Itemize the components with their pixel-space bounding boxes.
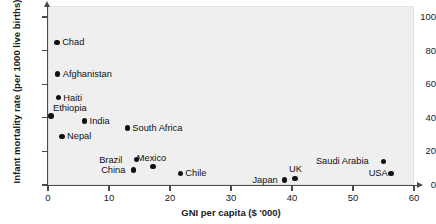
data-point xyxy=(178,171,183,176)
x-tick-mark xyxy=(352,186,353,191)
y-tick-label: 0 xyxy=(396,180,436,190)
data-point-label: Chad xyxy=(62,37,84,47)
x-tick-mark xyxy=(413,186,414,191)
x-tick-label: 10 xyxy=(89,193,129,203)
data-point xyxy=(292,176,297,181)
data-point xyxy=(125,125,130,130)
data-point-label: Chile xyxy=(185,168,206,178)
data-point-label: Afghanistan xyxy=(63,69,112,79)
data-point-label: Haiti xyxy=(63,93,82,103)
x-tick-mark xyxy=(230,186,231,191)
x-tick-label: 50 xyxy=(333,193,373,203)
y-tick-label: 80 xyxy=(396,46,436,56)
y-tick-label: 40 xyxy=(396,113,436,123)
y-tick-label: 20 xyxy=(396,146,436,156)
data-point-label: India xyxy=(90,116,110,126)
x-tick-label: 40 xyxy=(272,193,312,203)
scatter-chart: 020406080100 0102030405060 ChadAfghanist… xyxy=(0,0,436,224)
x-tick-mark xyxy=(108,186,109,191)
data-point-label: Ethiopia xyxy=(53,103,87,113)
data-point-label: China xyxy=(101,165,125,175)
data-point-label: South Africa xyxy=(132,123,182,133)
data-point-label: Brazil xyxy=(99,155,122,165)
x-tick-label: 0 xyxy=(28,193,68,203)
data-point xyxy=(150,164,155,169)
x-axis-line xyxy=(47,185,419,186)
x-tick-label: 20 xyxy=(150,193,190,203)
y-tick-label: 60 xyxy=(396,79,436,89)
x-axis-title: GNI per capita ($ '000) xyxy=(48,207,414,218)
data-point xyxy=(282,177,287,182)
y-tick-mark xyxy=(42,184,47,185)
y-tick-mark xyxy=(42,50,47,51)
data-point xyxy=(82,118,87,123)
data-point-label: Mexico xyxy=(137,153,166,163)
y-tick-mark xyxy=(42,84,47,85)
data-point xyxy=(54,40,59,45)
x-tick-mark xyxy=(291,186,292,191)
x-tick-mark xyxy=(169,186,170,191)
data-point xyxy=(388,171,393,176)
data-point-label: Nepal xyxy=(67,131,91,141)
x-tick-label: 30 xyxy=(211,193,251,203)
data-point-label: Saudi Arabia xyxy=(316,156,369,166)
y-axis-line xyxy=(47,6,48,186)
data-point-label: UK xyxy=(289,164,302,174)
data-point xyxy=(131,167,136,172)
y-tick-mark xyxy=(42,151,47,152)
y-tick-label: 100 xyxy=(396,12,436,22)
y-axis-title: Infant mortality rate (per 1000 live bir… xyxy=(11,0,22,187)
y-tick-mark xyxy=(42,16,47,17)
data-point xyxy=(59,134,64,139)
x-tick-mark xyxy=(47,186,48,191)
data-point-label: Japan xyxy=(252,175,277,185)
data-point-label: USA xyxy=(369,168,388,178)
data-point xyxy=(48,113,53,118)
x-tick-label: 60 xyxy=(394,193,434,203)
y-axis-arrow-icon xyxy=(44,1,50,7)
y-tick-mark xyxy=(42,117,47,118)
